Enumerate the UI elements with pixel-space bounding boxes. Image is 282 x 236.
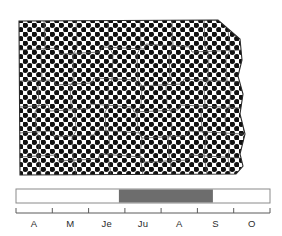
map-fill-region	[14, 14, 254, 182]
distribution-map	[14, 14, 254, 182]
month-label-septembre: S	[212, 218, 219, 229]
month-label-juillet: Ju	[138, 218, 148, 229]
north-dakota-map-svg	[14, 14, 254, 182]
month-label-aout: A	[176, 218, 183, 229]
timeline-ticks	[16, 208, 270, 213]
month-label-mai: M	[66, 218, 74, 229]
phenology-timeline: A M Je Ju A S O	[14, 186, 274, 232]
month-label-avril: A	[31, 218, 38, 229]
distribution-phenology-figure: A M Je Ju A S O	[0, 0, 282, 236]
activity-bar-active-period	[119, 190, 213, 203]
month-label-juin: Je	[101, 218, 111, 229]
phenology-timeline-svg: A M Je Ju A S O	[14, 186, 274, 232]
month-label-octobre: O	[248, 218, 256, 229]
